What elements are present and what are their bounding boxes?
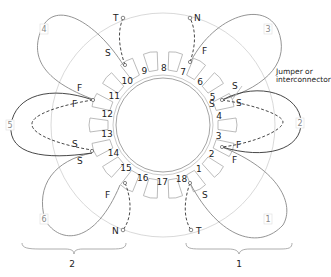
lead-slot10-T [119,18,125,65]
coil-number-3: 3 [265,25,270,34]
annotation-jumper-line2: interconnector [276,75,331,84]
pin-slot14 [90,149,93,152]
label-S-slot14-upper: S [72,139,78,149]
label-F-slot12-upper: F [77,83,82,93]
slot-number-17: 17 [156,177,167,187]
slot-number-2: 2 [209,149,215,159]
pin-slot12 [91,98,94,101]
coil-number-2: 2 [297,119,302,128]
label-S-slot10: S [105,48,111,58]
slot-number-13: 13 [101,129,112,139]
label-S-slot5-left: S [209,99,215,109]
slot-number-18: 18 [176,174,188,184]
stator-bore [116,78,210,172]
slot-number-1: 1 [196,164,202,174]
label-F-slot16: F [105,190,110,200]
pin-slot3 [220,145,223,148]
jumper-left [32,100,93,150]
label-F-slot3-lower: F [232,155,237,165]
label-S-slot5-upper: S [232,81,238,91]
pin-slot5 [220,98,223,101]
stator-winding-diagram: 123456789101112131415161718 [0,0,331,277]
stator-slot-2 [202,157,223,177]
pin-slot1 [188,181,191,184]
pin-slot10 [123,63,126,66]
slot-number-16: 16 [137,173,149,183]
group-bracket-2 [22,243,126,254]
coil-number-6: 6 [41,215,46,224]
label-F-slot12-lower: F [72,99,77,109]
stator-slot-6 [202,73,223,93]
group-label-1: 1 [236,259,242,269]
label-S-slot1: S [202,190,208,200]
slot-number-8: 8 [161,63,167,73]
label-S-slot5-lower: S [236,98,242,108]
coil-number-1: 1 [265,215,270,224]
group-label-2: 2 [69,259,75,269]
slot-number-3: 3 [216,131,222,141]
coil-number-4: 4 [41,25,46,34]
terminal-label-N-bottom: N [112,226,119,236]
pin-slot7 [188,60,191,63]
terminal-label-N-top: N [194,13,201,23]
terminal-label-T-top: T [112,13,119,23]
group-bracket-1 [186,243,292,254]
terminal-pin-N-top [188,16,192,20]
coil-number-5: 5 [7,121,12,130]
pin-slot16 [123,181,126,184]
slot-number-15: 15 [120,163,131,173]
label-F-slot7: F [202,46,207,56]
label-S-slot14-lower: S [77,156,83,166]
terminal-pin-T-top [121,16,125,20]
lead-slot1-T [185,183,191,230]
slot-number-10: 10 [121,76,133,86]
slot-number-6: 6 [197,77,203,87]
terminal-pin-T-bottom [189,228,193,232]
label-F-slot3-upper: F [236,140,241,150]
slot-number-11: 11 [109,91,120,101]
slot-number-7: 7 [180,67,186,77]
terminal-pin-N-bottom [121,228,125,232]
slot-number-9: 9 [142,66,148,76]
terminal-label-T-bottom: T [195,226,202,236]
slot-number-12: 12 [102,109,113,119]
slot-number-4: 4 [216,111,222,121]
slot-number-14: 14 [108,148,120,158]
